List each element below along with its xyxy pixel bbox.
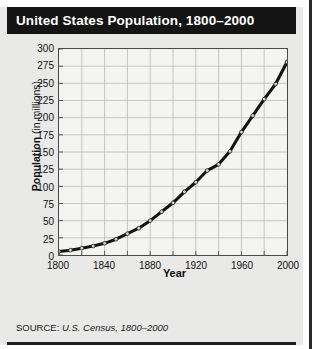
source-label: SOURCE:: [16, 322, 62, 333]
source-value: U.S. Census, 1800–2000: [62, 322, 168, 333]
chart-figure: United States Population, 1800–2000 Popu…: [0, 0, 303, 349]
figure-top-margin: [0, 0, 303, 7]
y-tick-label: 25: [10, 233, 54, 244]
y-tick-label: 50: [10, 216, 54, 227]
source-note: SOURCE: U.S. Census, 1800–2000: [16, 322, 168, 333]
plot-area: [58, 48, 288, 256]
y-tick-label: 100: [10, 181, 54, 192]
y-tick-label: 175: [10, 129, 54, 140]
y-tick-label: 250: [10, 77, 54, 88]
page-edge-rule: [309, 0, 312, 349]
x-axis-title: Year: [57, 267, 292, 279]
page-title: United States Population, 1800–2000: [7, 13, 254, 28]
y-tick-label: 300: [10, 43, 54, 54]
y-tick-label: 275: [10, 60, 54, 71]
y-tick-label: 225: [10, 95, 54, 106]
chart-title-bar: United States Population, 1800–2000: [7, 7, 296, 34]
figure-bottom-margin: [0, 345, 303, 349]
chart-body: Population (in millions) 025507510012515…: [7, 34, 296, 304]
y-tick-label: 200: [10, 112, 54, 123]
chart-plot-svg: [59, 49, 287, 255]
y-tick-label: 150: [10, 147, 54, 158]
y-tick-label: 75: [10, 199, 54, 210]
y-tick-label: 125: [10, 164, 54, 175]
